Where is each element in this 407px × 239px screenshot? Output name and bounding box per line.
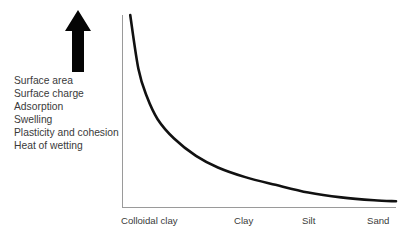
property-list-item: Swelling	[14, 114, 53, 125]
property-list: Surface area Surface charge Adsorption S…	[14, 75, 119, 151]
property-list-item: Plasticity and cohesion	[14, 127, 119, 138]
x-tick-label-sand: Sand	[367, 215, 389, 226]
property-list-item: Surface area	[14, 75, 73, 86]
up-arrow-icon	[65, 10, 91, 72]
x-tick-label-clay: Clay	[234, 215, 253, 226]
property-decay-curve	[130, 15, 396, 201]
property-list-item: Heat of wetting	[14, 140, 83, 151]
property-list-item: Adsorption	[14, 101, 64, 112]
x-tick-label-silt: Silt	[302, 215, 316, 226]
x-tick-label-colloidal-clay: Colloidal clay	[121, 215, 178, 226]
x-axis-tick-labels: Colloidal clay Clay Silt Sand	[121, 215, 389, 226]
soil-particle-property-chart: Surface area Surface charge Adsorption S…	[0, 0, 407, 239]
property-list-item: Surface charge	[14, 88, 84, 99]
